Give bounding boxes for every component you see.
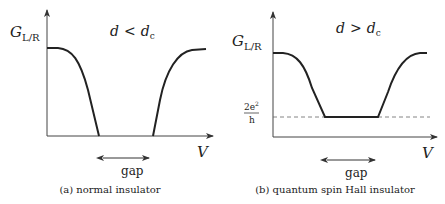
conductance-curve — [273, 53, 427, 117]
panel-a: GL/R d<dc V gap (a) normal insulator — [10, 10, 213, 195]
svg-text:h: h — [249, 115, 255, 125]
conductance-curve-right — [153, 49, 206, 136]
condition-label: d<dc — [110, 23, 155, 41]
x-axis-label: V — [197, 143, 210, 161]
y-axis-label: GL/R — [10, 23, 40, 43]
gap-label: gap — [345, 166, 368, 180]
caption-a: (a) normal insulator — [59, 184, 160, 195]
diagram-canvas: GL/R d<dc V gap (a) normal insulator GL/… — [0, 0, 445, 204]
panel-b: GL/R d>dc 2e2 h V gap (b) quantum spin H… — [232, 12, 437, 195]
caption-b: (b) quantum spin Hall insulator — [255, 184, 415, 195]
condition-label: d>dc — [336, 20, 381, 38]
y-axis-label: GL/R — [232, 32, 262, 52]
conductance-curve-left — [47, 48, 99, 136]
quantized-level-label: 2e2 h — [244, 100, 259, 125]
svg-text:2e2: 2e2 — [244, 100, 259, 112]
x-axis-label: V — [422, 144, 435, 162]
gap-label: gap — [121, 164, 144, 178]
